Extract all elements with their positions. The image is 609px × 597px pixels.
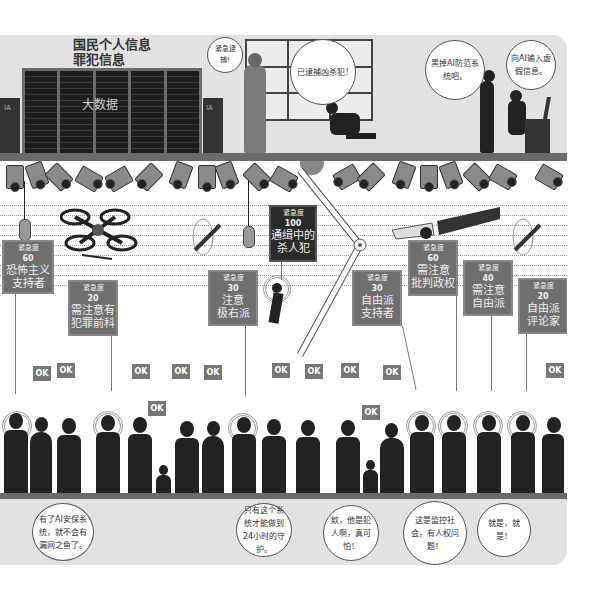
microphone-cable: [248, 181, 249, 226]
urgency-tag: 紧急度 60 恐怖主义 支持者: [2, 240, 54, 294]
microphone-icon: [19, 219, 31, 241]
camera-icon: [104, 165, 134, 193]
server-rack: [60, 71, 92, 153]
camera-icon: [168, 161, 193, 190]
database-title-line2: 罪犯信息: [73, 52, 151, 67]
surveillance-illustration: 国民个人信息 罪犯信息 大数据 IA IA 紧急逮捕! 已逮捕凶杀犯! 黑掉AI…: [0, 35, 567, 565]
ok-badge: OK: [383, 365, 401, 380]
urgency-tag: 紧急度 30 注意 极右派: [208, 270, 258, 326]
server-rack: [25, 71, 57, 153]
door-label: IA: [206, 104, 213, 112]
speech-bubble-pro-ai: 有了AI安保系统，就不会有漏网之鱼了。: [32, 503, 94, 561]
urgency-tag: 紧急度 40 需注意 自由派: [463, 260, 513, 316]
camera-icon: [214, 161, 239, 190]
speech-bubble-fake-info: 向AI输入虚假信息。: [506, 40, 556, 90]
ok-badge: OK: [546, 363, 564, 378]
camera-icon: [488, 163, 518, 191]
computer-desk: [525, 119, 550, 153]
database-title-line1: 国民个人信息: [73, 37, 151, 52]
camera-icon: [242, 162, 272, 192]
door-label: IA: [4, 104, 11, 112]
ok-badge: OK: [272, 363, 290, 378]
urgency-tag: 紧急度 60 需注意 批判政权: [408, 240, 458, 296]
camera-icon: [391, 161, 416, 190]
door-left: IA: [0, 98, 20, 155]
ok-badge: OK: [362, 405, 380, 420]
camera-icon: [420, 165, 438, 189]
hacker-seated: [508, 101, 526, 135]
camera-icon: [6, 165, 24, 189]
server-rack: [96, 71, 128, 153]
guard-head: [248, 53, 262, 67]
camera-icon: [438, 161, 463, 190]
ok-badge: OK: [305, 364, 323, 379]
urgency-tag: 紧急度 30 自由派 支持者: [352, 270, 402, 326]
tag-pointer: [402, 326, 416, 390]
camera-icon: [462, 162, 492, 192]
camera-icon: [534, 163, 564, 191]
tag-pointer: [456, 296, 457, 391]
ok-badge: OK: [341, 363, 359, 378]
speech-bubble-24h: 只有这个系统才能做到24小时的守护。: [236, 503, 292, 557]
ok-badge: OK: [204, 365, 222, 380]
speech-bubble-agree: 就是，就是！: [477, 503, 531, 557]
database-title: 国民个人信息 罪犯信息: [73, 37, 151, 67]
floor-rail: [0, 493, 567, 499]
drone-icon: [60, 205, 145, 260]
tag-pointer: [245, 326, 246, 396]
crouching-person-legs: [346, 133, 376, 139]
microphone-cable: [24, 181, 25, 221]
ceiling-rail: [0, 153, 567, 161]
ok-badge: OK: [132, 364, 150, 379]
speech-bubble-urgent-arrest: 紧急逮捕!: [207, 37, 243, 73]
urgency-tag: 紧急度 20 需注意有 犯罪前科: [68, 280, 118, 336]
speech-bubble-human-rights: 这是监控社会，有人权问题！: [403, 501, 467, 565]
big-data-label: 大数据: [82, 95, 118, 112]
hacker-standing: [480, 81, 494, 153]
ok-badge: OK: [33, 366, 51, 381]
tag-pointer: [15, 294, 16, 394]
server-racks: [22, 68, 202, 156]
door-right: IA: [203, 98, 223, 155]
crouching-person-body: [330, 113, 360, 135]
parabolic-mic-icon: [185, 215, 235, 260]
security-guard: [244, 65, 266, 153]
parabolic-mic-icon: [505, 215, 555, 260]
tag-pointer: [281, 262, 282, 280]
server-rack: [167, 71, 199, 153]
camera-icon: [74, 165, 104, 193]
speech-bubble-disable-ai: 黑掉AI防范系统吧。: [425, 40, 485, 100]
urgency-tag-wanted: 紧急度 100 通缉中的 杀人犯: [269, 205, 317, 262]
tag-pointer: [491, 316, 492, 391]
ok-badge: OK: [57, 363, 75, 378]
urgency-tag: 紧急度 20 自由派 评论家: [518, 278, 567, 334]
tag-pointer: [111, 336, 112, 391]
camera-icon: [198, 165, 216, 189]
camera-icon: [44, 162, 74, 192]
server-rack: [131, 71, 163, 153]
tag-pointer: [526, 334, 527, 391]
speech-bubble-captured: 已逮捕凶杀犯!: [290, 39, 356, 105]
microphone-icon: [243, 226, 255, 248]
speech-bubble-criminal: 欸，他是犯人啊，真可怕！: [323, 505, 379, 561]
ok-badge: OK: [148, 401, 166, 416]
ok-badge: OK: [172, 364, 190, 379]
camera-icon: [134, 162, 164, 192]
